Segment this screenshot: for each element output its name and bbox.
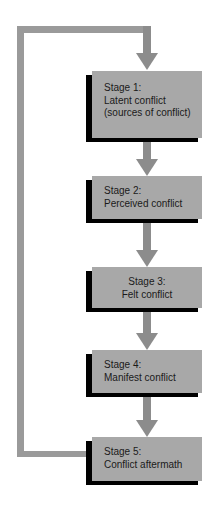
stage-label: Conflict aftermath [104,459,202,472]
stage-title: Stage 4: [104,359,202,372]
stage-title: Stage 3: [92,276,202,289]
stage-title: Stage 2: [104,185,202,198]
stage-1-box: Stage 1: Latent conflict (sources of con… [92,71,202,138]
stage-5-box: Stage 5: Conflict aftermath [92,437,202,481]
stage-label: Latent conflict [104,95,202,108]
stage-label: Felt conflict [92,289,202,302]
feedback-loop-top-line [17,26,151,33]
stage-2-box: Stage 2: Perceived conflict [92,176,202,219]
feedback-loop-bottom-line [17,451,89,457]
stage-title: Stage 1: [104,82,202,95]
arrow-down-icon [136,26,158,71]
stage-4-box: Stage 4: Manifest conflict [92,350,202,393]
stage-sublabel: (sources of conflict) [104,107,202,120]
arrow-down-icon [136,397,158,437]
conflict-process-diagram: Stage 1: Latent conflict (sources of con… [0,0,210,513]
arrow-down-icon [136,223,158,267]
feedback-loop-left-line [17,26,24,457]
arrow-down-icon [136,312,158,350]
stage-label: Perceived conflict [104,198,202,211]
stage-title: Stage 5: [104,446,202,459]
stage-3-box: Stage 3: Felt conflict [92,267,202,308]
arrow-down-icon [136,142,158,176]
stage-label: Manifest conflict [104,372,202,385]
